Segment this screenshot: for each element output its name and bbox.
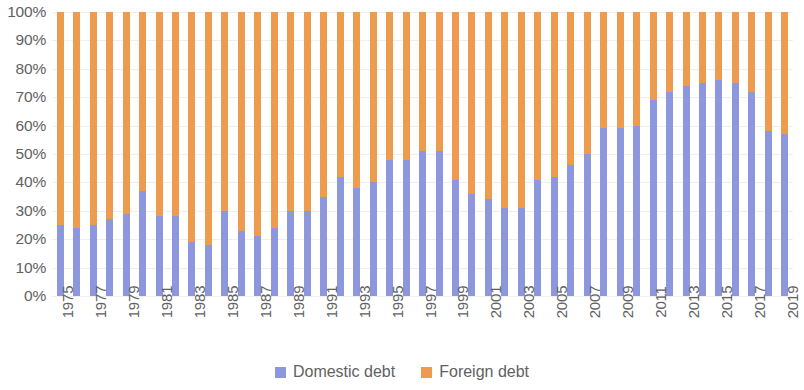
- bar-segment-foreign-debt[interactable]: [139, 12, 146, 191]
- bar-segment-foreign-debt[interactable]: [485, 12, 492, 199]
- bar-segment-foreign-debt[interactable]: [221, 12, 228, 211]
- bar-segment-domestic-debt[interactable]: [386, 160, 393, 296]
- bar-segment-foreign-debt[interactable]: [90, 12, 97, 225]
- bar-segment-foreign-debt[interactable]: [271, 12, 278, 228]
- stacked-bar[interactable]: [501, 12, 508, 296]
- bar-segment-foreign-debt[interactable]: [683, 12, 690, 86]
- bar-segment-domestic-debt[interactable]: [370, 182, 377, 296]
- bar-segment-foreign-debt[interactable]: [172, 12, 179, 216]
- bar-segment-foreign-debt[interactable]: [254, 12, 261, 236]
- bar-segment-domestic-debt[interactable]: [765, 131, 772, 296]
- bar-segment-domestic-debt[interactable]: [436, 151, 443, 296]
- stacked-bar[interactable]: [106, 12, 113, 296]
- bar-segment-domestic-debt[interactable]: [699, 83, 706, 296]
- stacked-bar[interactable]: [765, 12, 772, 296]
- bar-segment-domestic-debt[interactable]: [567, 165, 574, 296]
- bar-segment-domestic-debt[interactable]: [139, 191, 146, 296]
- stacked-bar[interactable]: [551, 12, 558, 296]
- stacked-bar[interactable]: [337, 12, 344, 296]
- stacked-bar[interactable]: [386, 12, 393, 296]
- bar-segment-domestic-debt[interactable]: [732, 83, 739, 296]
- stacked-bar[interactable]: [221, 12, 228, 296]
- bar-segment-foreign-debt[interactable]: [633, 12, 640, 126]
- bar-segment-domestic-debt[interactable]: [156, 216, 163, 296]
- stacked-bar[interactable]: [139, 12, 146, 296]
- bar-segment-foreign-debt[interactable]: [765, 12, 772, 131]
- bar-segment-foreign-debt[interactable]: [584, 12, 591, 154]
- bar-segment-foreign-debt[interactable]: [320, 12, 327, 197]
- stacked-bar[interactable]: [90, 12, 97, 296]
- bar-segment-foreign-debt[interactable]: [57, 12, 64, 225]
- legend-item[interactable]: Foreign debt: [421, 364, 529, 380]
- bar-segment-domestic-debt[interactable]: [584, 154, 591, 296]
- stacked-bar[interactable]: [172, 12, 179, 296]
- bar-segment-domestic-debt[interactable]: [534, 180, 541, 296]
- bar-segment-domestic-debt[interactable]: [748, 92, 755, 296]
- stacked-bar[interactable]: [600, 12, 607, 296]
- bar-segment-domestic-debt[interactable]: [353, 188, 360, 296]
- stacked-bar[interactable]: [188, 12, 195, 296]
- stacked-bar[interactable]: [287, 12, 294, 296]
- bar-segment-foreign-debt[interactable]: [436, 12, 443, 151]
- stacked-bar[interactable]: [650, 12, 657, 296]
- bar-segment-foreign-debt[interactable]: [551, 12, 558, 177]
- stacked-bar[interactable]: [353, 12, 360, 296]
- stacked-bar[interactable]: [73, 12, 80, 296]
- bar-segment-foreign-debt[interactable]: [452, 12, 459, 180]
- bar-segment-foreign-debt[interactable]: [732, 12, 739, 83]
- bar-segment-domestic-debt[interactable]: [617, 128, 624, 296]
- bar-segment-domestic-debt[interactable]: [650, 100, 657, 296]
- stacked-bar[interactable]: [617, 12, 624, 296]
- bar-segment-domestic-debt[interactable]: [172, 216, 179, 296]
- bar-segment-domestic-debt[interactable]: [501, 208, 508, 296]
- bar-segment-foreign-debt[interactable]: [518, 12, 525, 208]
- bar-segment-foreign-debt[interactable]: [567, 12, 574, 165]
- stacked-bar[interactable]: [699, 12, 706, 296]
- stacked-bar[interactable]: [370, 12, 377, 296]
- stacked-bar[interactable]: [485, 12, 492, 296]
- bar-segment-domestic-debt[interactable]: [633, 126, 640, 296]
- legend-item[interactable]: Domestic debt: [275, 364, 395, 380]
- bar-segment-domestic-debt[interactable]: [320, 197, 327, 296]
- bar-segment-foreign-debt[interactable]: [386, 12, 393, 160]
- bar-segment-foreign-debt[interactable]: [781, 12, 788, 134]
- bar-segment-foreign-debt[interactable]: [501, 12, 508, 208]
- bar-segment-foreign-debt[interactable]: [666, 12, 673, 92]
- stacked-bar[interactable]: [666, 12, 673, 296]
- stacked-bar[interactable]: [271, 12, 278, 296]
- stacked-bar[interactable]: [781, 12, 788, 296]
- stacked-bar[interactable]: [452, 12, 459, 296]
- bar-segment-foreign-debt[interactable]: [715, 12, 722, 80]
- bar-segment-domestic-debt[interactable]: [485, 199, 492, 296]
- bar-segment-foreign-debt[interactable]: [238, 12, 245, 231]
- bar-segment-domestic-debt[interactable]: [287, 211, 294, 296]
- bar-segment-foreign-debt[interactable]: [617, 12, 624, 128]
- bar-segment-domestic-debt[interactable]: [403, 160, 410, 296]
- stacked-bar[interactable]: [715, 12, 722, 296]
- stacked-bar[interactable]: [748, 12, 755, 296]
- bar-segment-foreign-debt[interactable]: [337, 12, 344, 177]
- bar-segment-foreign-debt[interactable]: [370, 12, 377, 182]
- bar-segment-foreign-debt[interactable]: [353, 12, 360, 188]
- bar-segment-foreign-debt[interactable]: [188, 12, 195, 242]
- stacked-bar[interactable]: [304, 12, 311, 296]
- bar-segment-domestic-debt[interactable]: [123, 214, 130, 296]
- bar-segment-domestic-debt[interactable]: [106, 219, 113, 296]
- bar-segment-foreign-debt[interactable]: [205, 12, 212, 245]
- stacked-bar[interactable]: [732, 12, 739, 296]
- stacked-bar[interactable]: [567, 12, 574, 296]
- stacked-bar[interactable]: [436, 12, 443, 296]
- bar-segment-foreign-debt[interactable]: [106, 12, 113, 219]
- bar-segment-domestic-debt[interactable]: [468, 194, 475, 296]
- bar-segment-domestic-debt[interactable]: [452, 180, 459, 296]
- bar-segment-domestic-debt[interactable]: [551, 177, 558, 296]
- bar-segment-foreign-debt[interactable]: [287, 12, 294, 211]
- stacked-bar[interactable]: [419, 12, 426, 296]
- bar-segment-domestic-debt[interactable]: [337, 177, 344, 296]
- bar-segment-foreign-debt[interactable]: [73, 12, 80, 228]
- bar-segment-foreign-debt[interactable]: [123, 12, 130, 214]
- stacked-bar[interactable]: [683, 12, 690, 296]
- bar-segment-domestic-debt[interactable]: [781, 134, 788, 296]
- stacked-bar[interactable]: [518, 12, 525, 296]
- stacked-bar[interactable]: [57, 12, 64, 296]
